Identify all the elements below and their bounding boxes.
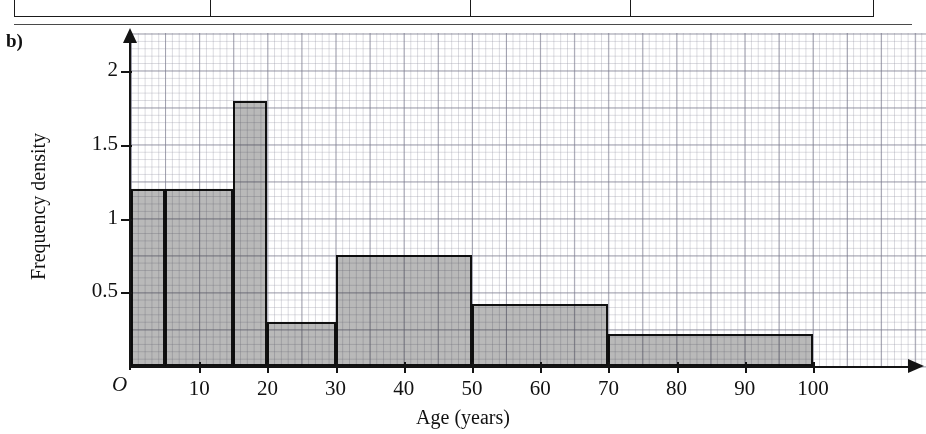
plot-area: [131, 33, 926, 368]
histogram-figure: b) 0.511.52 102030405060708090100 O Freq…: [0, 0, 926, 434]
x-tick-mark: [336, 362, 338, 373]
x-tick-label: 10: [189, 376, 210, 401]
y-tick-label: 1: [108, 205, 119, 230]
x-axis-arrow-icon: [908, 359, 924, 373]
table-column-divider-1: [210, 0, 211, 17]
x-tick-mark: [745, 362, 747, 373]
x-tick-mark: [199, 362, 201, 373]
x-tick-mark: [677, 362, 679, 373]
bar-series: [131, 33, 926, 368]
x-tick-mark: [404, 362, 406, 373]
histogram-bar: [336, 255, 472, 366]
y-tick-label-group: 0.511.52: [60, 0, 118, 434]
x-tick-label: 80: [666, 376, 687, 401]
table-right-edge: [873, 0, 874, 17]
y-tick-label: 1.5: [92, 131, 118, 156]
table-column-divider-3: [630, 0, 631, 17]
x-axis-title: Age (years): [0, 406, 926, 429]
x-tick-label: 40: [393, 376, 414, 401]
x-tick-mark: [608, 362, 610, 373]
histogram-bar: [472, 304, 608, 366]
y-axis-arrow-icon: [123, 28, 137, 43]
y-axis-title: Frequency density: [27, 77, 50, 337]
y-tick-mark: [121, 292, 132, 294]
y-axis-line: [129, 40, 131, 370]
x-tick-mark: [813, 362, 815, 373]
x-tick-mark: [267, 362, 269, 373]
table-column-divider-2: [470, 0, 471, 17]
table-remnant: [14, 0, 874, 20]
x-tick-mark: [472, 362, 474, 373]
x-tick-mark: [540, 362, 542, 373]
y-tick-label: 0.5: [92, 278, 118, 303]
table-left-edge: [14, 0, 15, 17]
part-label: b): [6, 30, 23, 52]
x-tick-label: 20: [257, 376, 278, 401]
x-tick-label: 90: [734, 376, 755, 401]
table-bottom-rule: [14, 16, 874, 17]
origin-label: O: [112, 372, 127, 397]
x-tick-label: 60: [530, 376, 551, 401]
histogram-bar: [165, 189, 233, 366]
y-tick-mark: [121, 145, 132, 147]
histogram-bar: [131, 189, 165, 366]
x-tick-label: 50: [462, 376, 483, 401]
x-axis-line: [131, 366, 916, 368]
histogram-bar: [608, 334, 813, 366]
histogram-bar: [267, 322, 335, 366]
x-tick-label: 30: [325, 376, 346, 401]
y-tick-label: 2: [108, 57, 119, 82]
y-tick-mark: [121, 219, 132, 221]
table-underline: [14, 24, 912, 25]
y-tick-mark: [121, 71, 132, 73]
x-tick-label: 70: [598, 376, 619, 401]
histogram-bar: [233, 101, 267, 367]
x-tick-label: 100: [797, 376, 829, 401]
